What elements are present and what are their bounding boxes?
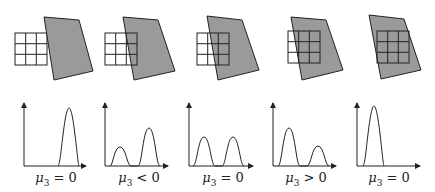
histogram-plot-1	[24, 103, 86, 166]
panel-4-top	[288, 17, 343, 80]
dark-region	[123, 17, 175, 80]
panel-3-label: μ3 = 0	[183, 170, 263, 188]
histogram-plot-5	[357, 103, 420, 166]
distribution-curve	[363, 106, 384, 166]
distribution-curve	[278, 128, 329, 166]
panel-4-label: μ3 > 0	[266, 170, 346, 188]
panel-5-top	[369, 15, 421, 79]
panel-2-label: μ3 < 0	[99, 170, 179, 188]
dark-region	[207, 16, 259, 80]
histogram-plot-2	[105, 103, 168, 166]
skewness-diagram	[0, 0, 435, 192]
distribution-curve	[193, 137, 244, 166]
panel-3-top	[197, 16, 259, 80]
distribution-curve	[58, 108, 79, 166]
histogram-plot-3	[189, 103, 253, 166]
distribution-curve	[110, 128, 160, 166]
panel-5-label: μ3 = 0	[349, 170, 429, 188]
window-grid	[15, 33, 47, 65]
panel-1-label: μ3 = 0	[16, 170, 96, 188]
panel-1-top	[15, 17, 93, 80]
dark-region	[44, 17, 93, 80]
panel-2-top	[105, 17, 175, 80]
histogram-plot-4	[273, 103, 336, 166]
